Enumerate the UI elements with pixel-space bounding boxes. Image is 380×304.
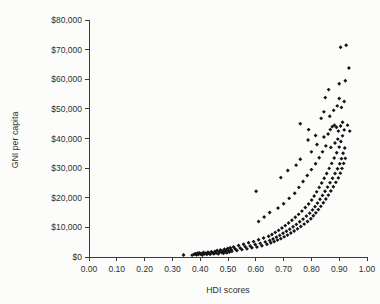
y-tick-label: $30,000 [51,163,82,173]
y-tick-label: $50,000 [51,104,82,114]
y-axis-title: GNI per capita [10,112,20,169]
y-tick-label: $80,000 [51,15,82,25]
x-axis-title: HDI scores [206,285,250,295]
x-tick-label: 0.50 [220,264,237,274]
chart-figure: $0$10,000$20,000$30,000$40,000$50,000$60… [0,0,380,304]
y-tick-label: $70,000 [51,45,82,55]
y-tick-label: $0 [73,252,83,262]
x-tick-label: 0.30 [164,264,181,274]
x-tick-label: 0.40 [192,264,209,274]
y-tick-label: $40,000 [51,134,82,144]
y-tick-label: $60,000 [51,74,82,84]
y-tick-label: $20,000 [51,193,82,203]
y-tick-label: $10,000 [51,222,82,232]
scatter-plot-svg: $0$10,000$20,000$30,000$40,000$50,000$60… [0,0,380,304]
x-tick-label: 0.10 [109,264,126,274]
x-tick-label: 0.00 [81,264,98,274]
x-tick-label: 0.60 [248,264,265,274]
y-axis-tick-labels: $0$10,000$20,000$30,000$40,000$50,000$60… [51,15,82,262]
x-tick-label: 1.00 [359,264,376,274]
x-axis-tick-labels: 0.000.100.200.300.400.500.600.700.800.90… [81,264,376,274]
x-tick-label: 0.90 [331,264,348,274]
x-tick-label: 0.70 [275,264,292,274]
x-tick-label: 0.80 [303,264,320,274]
x-tick-label: 0.20 [136,264,153,274]
